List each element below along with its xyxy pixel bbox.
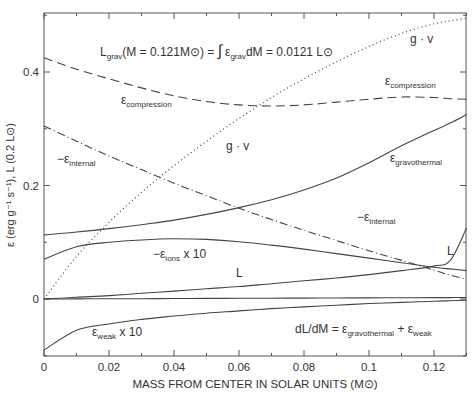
- series-line: [44, 126, 467, 279]
- axis-ticks: [44, 13, 467, 356]
- x-tick-label: 0.12: [423, 361, 445, 373]
- label-internal-left: −εinternal: [57, 152, 96, 168]
- y-tick-label: 0: [33, 293, 39, 305]
- label-gv-mid: g · v: [226, 139, 249, 153]
- y-tick-label: 0.2: [23, 180, 39, 192]
- label-compression-left: εcompression: [121, 93, 172, 109]
- label-L-right: L: [447, 244, 454, 258]
- chart: 00.020.040.060.080.10.1200.20.4 ε (erg g…: [0, 0, 475, 396]
- series-line: [44, 298, 467, 300]
- label-weak: εweak x 10: [92, 325, 142, 341]
- x-tick-label: 0.1: [361, 361, 377, 373]
- x-tick-label: 0.08: [293, 361, 315, 373]
- lgrav-annotation: Lgrav(M = 0.121M⊙) = ∫εgravdM = 0.0121 L…: [100, 42, 333, 61]
- y-axis-label: ε (erg g⁻¹ s⁻¹), L (0.2 L⊙): [4, 123, 16, 247]
- plot-frame: [44, 13, 466, 356]
- series-line: [44, 239, 467, 271]
- x-tick-label: 0.02: [98, 361, 120, 373]
- series-line: [44, 228, 467, 299]
- label-ions: −εions x 10: [153, 247, 206, 263]
- series-line: [44, 115, 467, 235]
- x-tick-label: 0.04: [163, 361, 186, 373]
- data-series: [44, 18, 467, 350]
- label-internal-right: −εinternal: [357, 210, 396, 226]
- label-L-mid: L: [236, 266, 243, 280]
- x-axis-label: MASS FROM CENTER IN SOLAR UNITS (M⊙): [132, 378, 377, 390]
- label-gv-top: g · v: [410, 32, 433, 46]
- label-gravothermal: εgravothermal: [390, 151, 442, 167]
- x-tick-label: 0: [41, 361, 47, 373]
- y-tick-label: 0.4: [23, 66, 40, 78]
- label-compression-right: εcompression: [385, 74, 436, 90]
- dldm-annotation: dL/dM = εgravothermal + εweak: [295, 322, 433, 338]
- x-tick-label: 0.06: [228, 361, 250, 373]
